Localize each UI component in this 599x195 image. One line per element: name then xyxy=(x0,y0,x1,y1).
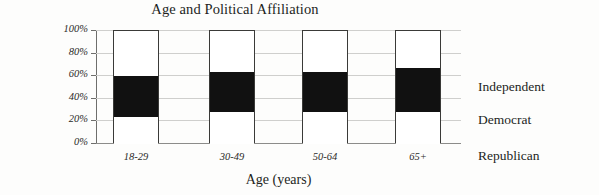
legend-label-republican: Republican xyxy=(478,148,539,164)
bar-segment-republican-18-29 xyxy=(114,117,158,144)
x-axis-tick-label-18-29: 18-29 xyxy=(96,151,176,162)
bar-30-49 xyxy=(209,30,255,143)
bar-segment-democrat-30-49 xyxy=(210,72,254,112)
y-axis-tick-label: 20% xyxy=(46,113,88,124)
y-axis-tick-labels: 100%80%60%40%20%0% xyxy=(44,0,88,195)
y-axis-tick-label: 80% xyxy=(46,46,88,57)
x-axis-tick-label-50-64: 50-64 xyxy=(285,151,365,162)
bar-18-29 xyxy=(113,30,159,143)
plot-area xyxy=(96,30,461,143)
bar-segment-independent-18-29 xyxy=(114,31,158,76)
legend: IndependentDemocratRepublican xyxy=(478,30,598,145)
bar-segment-republican-65+ xyxy=(396,112,440,144)
legend-label-democrat: Democrat xyxy=(478,112,531,128)
bar-segment-democrat-50-64 xyxy=(303,72,347,112)
bar-50-64 xyxy=(302,30,348,143)
bar-segment-independent-30-49 xyxy=(210,31,254,72)
chart-figure: Age and Political Affiliation Percent 10… xyxy=(0,0,599,195)
bar-segment-independent-65+ xyxy=(396,31,440,68)
x-axis-title: Age (years) xyxy=(96,172,461,188)
bar-segment-independent-50-64 xyxy=(303,31,347,72)
y-axis-tick-label: 100% xyxy=(46,23,88,34)
y-axis-tick-label: 40% xyxy=(46,91,88,102)
y-axis-tick-label: 60% xyxy=(46,68,88,79)
bar-segment-democrat-65+ xyxy=(396,68,440,112)
x-axis-tick-label-30-49: 30-49 xyxy=(192,151,272,162)
bar-65+ xyxy=(395,30,441,143)
legend-label-independent: Independent xyxy=(478,79,545,95)
x-axis-tick-label-65+: 65+ xyxy=(378,151,458,162)
bar-segment-republican-50-64 xyxy=(303,111,347,144)
bar-segment-republican-30-49 xyxy=(210,111,254,144)
bar-segment-democrat-18-29 xyxy=(114,76,158,117)
y-axis-tick-label: 0% xyxy=(46,136,88,147)
